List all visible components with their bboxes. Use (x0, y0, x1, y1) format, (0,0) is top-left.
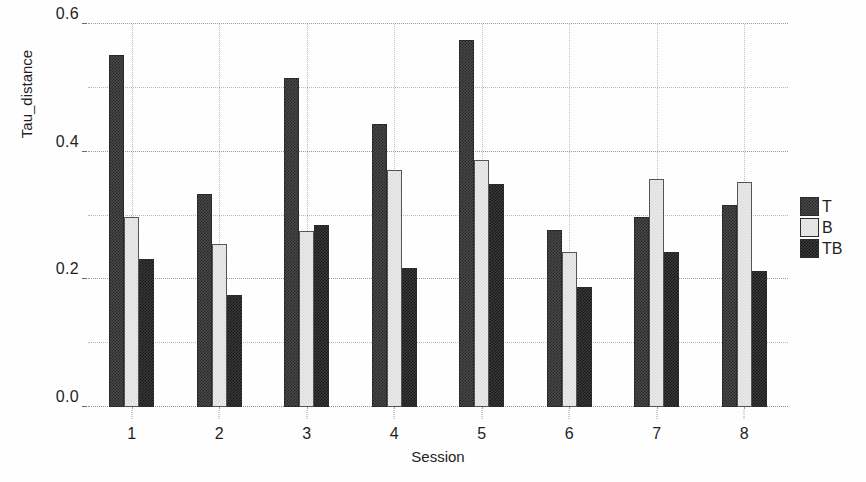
bar-t-session-7 (634, 217, 649, 407)
y-tick-label: 0.6 (56, 5, 79, 23)
bar-tb-session-2 (227, 295, 242, 407)
gridline-horizontal-major (88, 278, 788, 279)
legend-label-tb: TB (822, 241, 842, 257)
bar-tb-session-5 (489, 184, 504, 407)
bar-tb-session-8 (752, 271, 767, 407)
gridline-horizontal-minor (88, 215, 788, 216)
x-tick-label: 2 (215, 425, 224, 443)
bar-tb-session-6 (577, 287, 592, 407)
y-tick-label: 0.2 (56, 260, 79, 278)
bar-tb-session-1 (139, 259, 154, 407)
y-tick-mark (82, 278, 87, 279)
bar-tb-session-3 (314, 225, 329, 407)
bar-b-session-1 (124, 217, 139, 407)
bar-t-session-5 (459, 40, 474, 407)
bar-group (634, 24, 679, 407)
legend-label-t: T (822, 199, 832, 215)
bar-t-session-6 (547, 230, 562, 407)
legend-item-tb: TB (800, 238, 842, 259)
bar-group (372, 24, 417, 407)
y-tick-mark (82, 151, 87, 152)
y-tick-label: 0.0 (56, 388, 79, 406)
gridline-horizontal-minor (88, 87, 788, 88)
legend-item-t: T (800, 196, 842, 217)
x-tick-label: 6 (565, 425, 574, 443)
x-tick-label: 5 (477, 425, 486, 443)
legend-item-b: B (800, 217, 842, 238)
x-tick-mark (656, 407, 657, 419)
plot-area: 0.00.20.40.6 12345678 (88, 24, 788, 407)
x-tick-label: 7 (652, 425, 661, 443)
bar-b-session-8 (737, 182, 752, 407)
x-tick-mark (394, 407, 395, 419)
x-tick-label: 4 (390, 425, 399, 443)
legend: TBTB (800, 196, 842, 259)
bar-b-session-4 (387, 170, 402, 407)
gridline-horizontal-major (88, 23, 788, 24)
y-tick-label: 0.4 (56, 133, 79, 151)
gridline-horizontal-minor (88, 342, 788, 343)
x-tick-mark (306, 407, 307, 419)
y-tick-mark (82, 23, 87, 24)
chart-figure: 0.00.20.40.6 12345678 Session Tau_distan… (0, 0, 866, 482)
bar-tb-session-4 (402, 268, 417, 407)
bar-group (109, 24, 154, 407)
bar-t-session-1 (109, 55, 124, 407)
legend-swatch-b (800, 218, 819, 237)
x-axis-baseline (88, 406, 788, 407)
bar-t-session-4 (372, 124, 387, 407)
x-tick-mark (569, 407, 570, 419)
bar-group (197, 24, 242, 407)
x-tick-mark (131, 407, 132, 419)
y-axis-title: Tau_distance (18, 4, 35, 184)
bar-group (547, 24, 592, 407)
bar-t-session-3 (284, 78, 299, 407)
legend-swatch-tb (800, 239, 819, 258)
y-tick-mark (82, 406, 87, 407)
x-tick-label: 8 (740, 425, 749, 443)
bar-tb-session-7 (664, 252, 679, 407)
bar-b-session-3 (299, 231, 314, 407)
legend-label-b: B (822, 220, 833, 236)
x-tick-mark (219, 407, 220, 419)
x-tick-mark (481, 407, 482, 419)
bar-group (722, 24, 767, 407)
x-tick-label: 3 (302, 425, 311, 443)
bar-b-session-7 (649, 179, 664, 407)
x-tick-label: 1 (127, 425, 136, 443)
bar-t-session-8 (722, 205, 737, 407)
x-axis-title: Session (88, 448, 788, 465)
bar-group (284, 24, 329, 407)
bar-group (459, 24, 504, 407)
bar-t-session-2 (197, 194, 212, 407)
legend-swatch-t (800, 197, 819, 216)
bar-b-session-2 (212, 244, 227, 407)
x-tick-mark (744, 407, 745, 419)
gridline-horizontal-major (88, 151, 788, 152)
bar-b-session-6 (562, 252, 577, 407)
bar-b-session-5 (474, 160, 489, 407)
